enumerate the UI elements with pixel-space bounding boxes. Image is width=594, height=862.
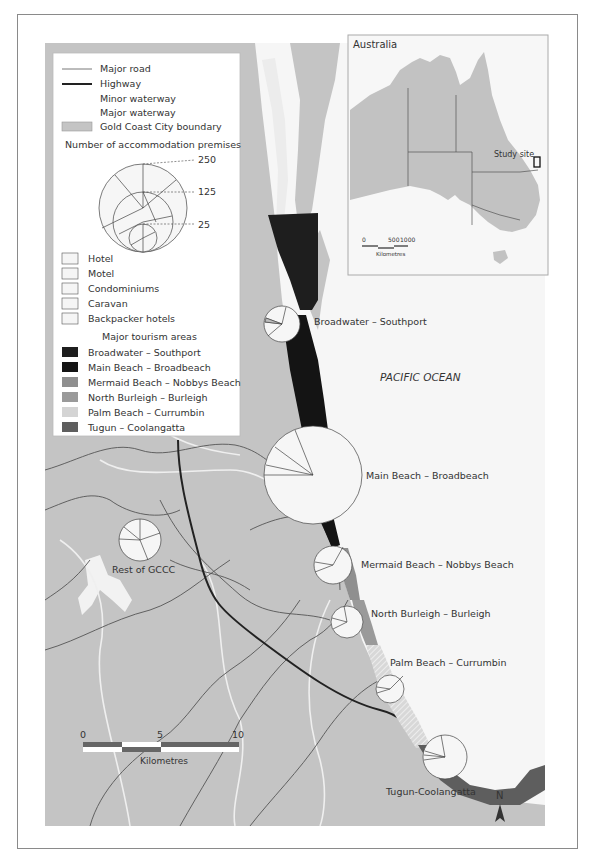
label-rest-of-gccc: Rest of GCCC [112, 564, 176, 575]
legend-area-north-burleigh: North Burleigh – Burleigh [88, 392, 208, 403]
pie-rest-of-gccc [119, 519, 161, 561]
svg-text:500: 500 [388, 236, 400, 243]
svg-text:5: 5 [157, 729, 163, 740]
legend-motel: Motel [88, 268, 114, 279]
svg-text:0: 0 [362, 236, 366, 243]
legend-backpacker: Backpacker hotels [88, 313, 175, 324]
label-mermaid-nobbys: Mermaid Beach – Nobbys Beach [361, 559, 514, 570]
pie-palm-beach [376, 675, 404, 703]
legend-highway: Highway [100, 78, 141, 89]
size-125: 125 [198, 186, 216, 197]
label-north-burleigh: North Burleigh – Burleigh [371, 608, 491, 619]
size-legend-circles [99, 164, 187, 252]
label-palm-beach: Palm Beach – Currumbin [390, 657, 507, 668]
label-broadwater-southport: Broadwater – Southport [314, 316, 427, 327]
pie-tugun-coolangatta [423, 735, 467, 779]
area-swatch-broadwater [62, 347, 78, 357]
svg-text:Kilometres: Kilometres [376, 251, 405, 257]
legend-area-palm-beach: Palm Beach – Currumbin [88, 407, 205, 418]
legend-major-road: Major road [100, 63, 151, 74]
legend-hotel: Hotel [88, 253, 113, 264]
legend-caravan: Caravan [88, 298, 128, 309]
label-main-beach-broadbeach: Main Beach – Broadbeach [366, 470, 489, 481]
area-swatch-tugun [62, 422, 78, 432]
legend-major-waterway: Major waterway [100, 107, 176, 118]
size-250: 250 [198, 154, 216, 165]
size-legend-title: Number of accommodation premises [65, 139, 241, 150]
area-swatch-mermaid [62, 377, 78, 387]
svg-text:Kilometres: Kilometres [140, 756, 188, 766]
svg-text:0: 0 [80, 729, 86, 740]
legend-area-main-beach: Main Beach – Broadbeach [88, 362, 211, 373]
legend-condominiums: Condominiums [88, 283, 159, 294]
area-swatch-main-beach [62, 362, 78, 372]
backpacker-swatch [62, 313, 78, 324]
legend-area-tugun: Tugun – Coolangatta [87, 422, 185, 433]
ocean-label: PACIFIC OCEAN [380, 371, 461, 383]
legend-minor-waterway: Minor waterway [100, 93, 176, 104]
areas-title: Major tourism areas [102, 331, 197, 342]
caravan-swatch [62, 298, 78, 309]
legend-boundary: Gold Coast City boundary [100, 121, 222, 132]
pie-mermaid-nobbys [314, 546, 352, 584]
pie-broadwater-southport [264, 306, 300, 342]
svg-text:1000: 1000 [400, 236, 415, 243]
svg-text:10: 10 [232, 729, 244, 740]
pie-main-beach-broadbeach [264, 426, 362, 524]
legend-area-mermaid: Mermaid Beach – Nobbys Beach [88, 377, 241, 388]
legend: Major road Highway Minor waterway Major … [53, 53, 241, 436]
boundary-swatch [62, 122, 92, 131]
gold-coast-map: Australia Study site 0 500 1000 Kilometr… [0, 0, 594, 862]
hotel-swatch [62, 253, 78, 264]
label-tugun-coolangatta: Tugun-Coolangatta [385, 786, 476, 797]
svg-text:N: N [496, 790, 503, 801]
motel-swatch [62, 268, 78, 279]
inset-map: Australia Study site 0 500 1000 Kilometr… [348, 35, 548, 275]
condominiums-swatch [62, 283, 78, 294]
study-site-label: Study site [494, 150, 534, 159]
pie-north-burleigh [331, 606, 363, 638]
inset-title: Australia [353, 39, 397, 50]
area-swatch-north-burleigh [62, 392, 78, 402]
area-swatch-palm-beach [62, 407, 78, 417]
legend-area-broadwater: Broadwater – Southport [88, 347, 201, 358]
size-25: 25 [198, 219, 210, 230]
